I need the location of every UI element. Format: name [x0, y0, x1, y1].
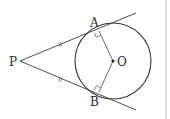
label-o: O: [117, 55, 127, 69]
tangent-diagram: P A B O: [0, 0, 170, 119]
center-point-o: [111, 59, 114, 62]
label-p: P: [9, 55, 17, 69]
radius-oa: [99, 31, 113, 61]
radius-ob: [99, 61, 113, 92]
tangent-line-pa: [20, 13, 136, 61]
label-b: B: [90, 95, 99, 109]
label-a: A: [89, 16, 99, 30]
